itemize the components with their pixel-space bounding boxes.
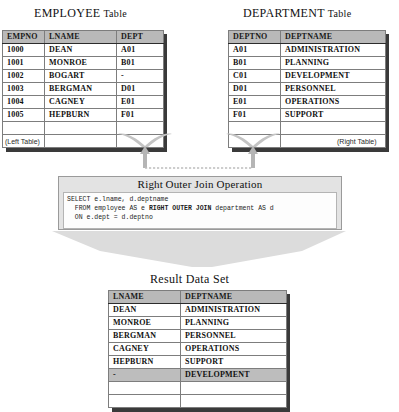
table-row: E01 OPERATIONS xyxy=(229,96,386,109)
table-row: 1001 MONROE B01 xyxy=(3,57,164,70)
right-funnel-icon xyxy=(226,134,280,168)
sql-line-2-keyword: RIGHT OUTER JOIN xyxy=(149,205,211,212)
sql-operation-panel: Right Outer Join Operation SELECT e.lnam… xyxy=(58,176,342,230)
cell-empty xyxy=(181,382,287,395)
employee-title-suffix: Table xyxy=(103,8,127,19)
result-table: LNAME DEPTNAME DEAN ADMINISTRATION MONRO… xyxy=(108,290,286,408)
column-header-deptname: DEPTNAME xyxy=(281,31,386,44)
cell-dept: - xyxy=(117,70,164,83)
table-row: 1002 BOGART - xyxy=(3,70,164,83)
table-row: F01 SUPPORT xyxy=(229,109,386,122)
column-header-dept: DEPT xyxy=(117,31,164,44)
cell-deptname: ADMINISTRATION xyxy=(281,44,386,57)
result-title-word3: Set xyxy=(213,272,229,286)
table-row: BERGMAN PERSONNEL xyxy=(109,330,287,343)
cell-lname: BERGMAN xyxy=(45,83,117,96)
column-header-empno: EMPNO xyxy=(3,31,45,44)
cell-empno: 1003 xyxy=(3,83,45,96)
cell-lname: DEAN xyxy=(45,44,117,57)
cell-deptname: OPERATIONS xyxy=(181,343,287,356)
sql-line-2-pre: FROM employee AS e xyxy=(67,205,149,212)
column-header-lname: LNAME xyxy=(109,291,181,304)
cell-deptname: PERSONNEL xyxy=(281,83,386,96)
cell-deptname: PLANNING xyxy=(181,317,287,330)
table-row: 1004 CAGNEY E01 xyxy=(3,96,164,109)
cell-empno: 1005 xyxy=(3,109,45,122)
cell-empno: 1002 xyxy=(3,70,45,83)
table-row: 1005 HEPBURN F01 xyxy=(3,109,164,122)
table-row: DEAN ADMINISTRATION xyxy=(109,304,287,317)
column-header-deptno: DEPTNO xyxy=(229,31,281,44)
cell-deptno: C01 xyxy=(229,70,281,83)
department-title-suffix: Table xyxy=(328,8,352,19)
table-row: D01 PERSONNEL xyxy=(229,83,386,96)
cell-empty xyxy=(109,395,181,408)
table-row: B01 PLANNING xyxy=(229,57,386,70)
op-title-word1: Right xyxy=(138,178,163,190)
employee-table-title: EMPLOYEETable xyxy=(34,6,127,21)
cell-deptname: PLANNING xyxy=(281,57,386,70)
result-down-arrow-icon xyxy=(52,229,346,269)
cell-deptno: E01 xyxy=(229,96,281,109)
department-table-title: DEPARTMENTTable xyxy=(243,6,351,21)
cell-deptname: DEVELOPMENT xyxy=(181,369,287,382)
sql-line-3: ON e.dept = d.deptno xyxy=(67,214,153,221)
table-row: 1000 DEAN A01 xyxy=(3,44,164,57)
cell-lname: BOGART xyxy=(45,70,117,83)
cell-dept: A01 xyxy=(117,44,164,57)
table-header-row: DEPTNO DEPTNAME xyxy=(229,31,386,44)
column-header-deptname: DEPTNAME xyxy=(181,291,287,304)
cell-deptno: A01 xyxy=(229,44,281,57)
left-funnel-icon xyxy=(118,134,172,168)
cell-empty xyxy=(109,382,181,395)
table-row-empty xyxy=(109,382,287,395)
result-data-set-title: Result Data Set xyxy=(150,272,229,287)
cell-deptname: OPERATIONS xyxy=(281,96,386,109)
result-table-grid: LNAME DEPTNAME DEAN ADMINISTRATION MONRO… xyxy=(108,290,287,408)
cell-dept: F01 xyxy=(117,109,164,122)
table-row-unmatched: - DEVELOPMENT xyxy=(109,369,287,382)
op-title-word4: Operation xyxy=(217,178,263,190)
cell-lname: CAGNEY xyxy=(109,343,181,356)
cell-lname: DEAN xyxy=(109,304,181,317)
table-row: A01 ADMINISTRATION xyxy=(229,44,386,57)
cell-lname: - xyxy=(109,369,181,382)
column-header-lname: LNAME xyxy=(45,31,117,44)
table-header-row: EMPNO LNAME DEPT xyxy=(3,31,164,44)
cell-lname: CAGNEY xyxy=(45,96,117,109)
cell-deptno: B01 xyxy=(229,57,281,70)
cell-deptname: PERSONNEL xyxy=(181,330,287,343)
cell-dept: E01 xyxy=(117,96,164,109)
cell-lname: MONROE xyxy=(45,57,117,70)
cell-deptname: DEVELOPMENT xyxy=(281,70,386,83)
table-row: C01 DEVELOPMENT xyxy=(229,70,386,83)
cell-deptname: SUPPORT xyxy=(281,109,386,122)
sql-line-1: SELECT e.lname, d.deptname xyxy=(67,196,168,203)
cell-dept: B01 xyxy=(117,57,164,70)
result-title-word1: Result xyxy=(150,272,182,286)
employee-title-word: EMPLOYEE xyxy=(34,6,100,20)
cell-deptname: SUPPORT xyxy=(181,356,287,369)
table-row: MONROE PLANNING xyxy=(109,317,287,330)
join-connectors xyxy=(0,128,399,176)
sql-operation-title: Right Outer Join Operation xyxy=(59,177,341,192)
cell-deptname: ADMINISTRATION xyxy=(181,304,287,317)
cell-empno: 1001 xyxy=(3,57,45,70)
result-title-word2: Data xyxy=(186,272,210,286)
cell-empno: 1000 xyxy=(3,44,45,57)
table-row: 1003 BERGMAN D01 xyxy=(3,83,164,96)
cell-lname: HEPBURN xyxy=(45,109,117,122)
department-title-word: DEPARTMENT xyxy=(243,6,325,20)
op-title-word2: Outer xyxy=(166,178,192,190)
cell-lname: HEPBURN xyxy=(109,356,181,369)
cell-dept: D01 xyxy=(117,83,164,96)
cell-lname: MONROE xyxy=(109,317,181,330)
sql-line-2-post: department AS d xyxy=(211,205,273,212)
cell-lname: BERGMAN xyxy=(109,330,181,343)
cell-deptno: D01 xyxy=(229,83,281,96)
cell-empty xyxy=(181,395,287,408)
op-title-word3: Join xyxy=(195,178,214,190)
cell-empno: 1004 xyxy=(3,96,45,109)
sql-code-block: SELECT e.lname, d.deptname FROM employee… xyxy=(63,192,337,229)
table-row-empty xyxy=(109,395,287,408)
